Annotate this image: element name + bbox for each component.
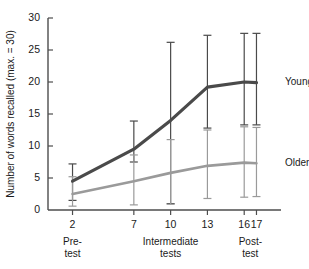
x-tick-label-7: 7	[131, 218, 137, 230]
y-tick-label-25: 25	[28, 43, 40, 55]
error-bar-0-4	[240, 33, 248, 125]
x-tick-label-2: 2	[70, 218, 76, 230]
y-axis-title: Number of words recalled (max. = 30)	[5, 30, 16, 198]
y-tick-label-5: 5	[34, 171, 40, 183]
y-tick-label-15: 15	[28, 107, 40, 119]
chart-container: 0510152025302710131617Pre-testIntermedia…	[0, 0, 309, 269]
y-tick-label-0: 0	[34, 203, 40, 215]
x-group-label-0-line1: Pre-	[63, 236, 82, 247]
x-group-label-2-line2: test	[242, 248, 258, 259]
x-group-label-2-line1: Post-	[239, 236, 262, 247]
x-tick-label-13: 13	[202, 218, 214, 230]
x-tick-label-17: 17	[251, 218, 263, 230]
error-bar-0-3	[203, 35, 211, 128]
series-label-young-adults: Young adults	[285, 76, 309, 87]
y-tick-label-30: 30	[28, 11, 40, 23]
x-group-label-0-line2: test	[64, 248, 80, 259]
y-tick-label-20: 20	[28, 75, 40, 87]
recall-line-chart: 0510152025302710131617Pre-testIntermedia…	[0, 0, 309, 269]
x-tick-label-16: 16	[238, 218, 250, 230]
y-tick-label-10: 10	[28, 139, 40, 151]
error-bar-1-3	[203, 130, 211, 198]
series-line-young-adults	[73, 82, 257, 181]
x-group-label-1-line1: Intermediate	[143, 236, 199, 247]
series-label-older-adults: Older adults	[285, 157, 309, 168]
x-tick-label-10: 10	[165, 218, 177, 230]
error-bar-0-5	[252, 33, 260, 125]
x-group-label-1-line2: tests	[160, 248, 181, 259]
